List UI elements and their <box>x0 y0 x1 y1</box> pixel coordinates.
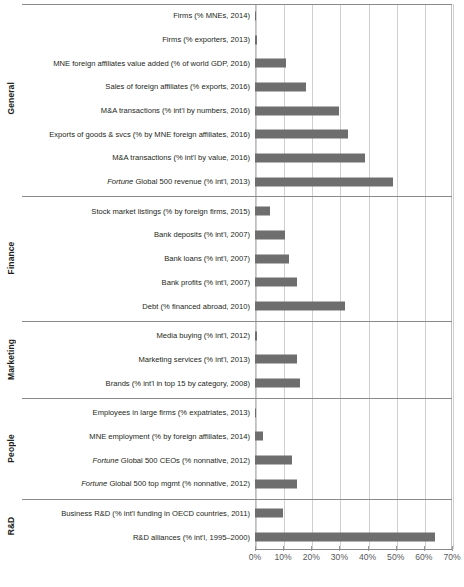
bar-track <box>255 271 464 295</box>
bar-track <box>255 247 464 271</box>
row-label: MNE foreign affiliates value added (% of… <box>22 59 255 68</box>
group-label-column: GeneralFinanceMarketingPeopleR&D <box>0 0 22 549</box>
chart-row: Stock market listings (% by foreign firm… <box>22 199 464 223</box>
bar-track <box>255 448 464 472</box>
bar <box>255 456 292 465</box>
bar <box>255 432 263 441</box>
chart-row: Bank deposits (% int'l, 2007) <box>22 223 464 247</box>
chart-row: Fortune Global 500 top mgmt (% nonnative… <box>22 472 464 496</box>
bar <box>255 130 348 139</box>
x-tick-label: 10% <box>275 552 292 562</box>
bar <box>255 153 365 162</box>
bar <box>255 278 297 287</box>
bar-track <box>255 99 464 123</box>
row-label: Fortune Global 500 revenue (% int'l, 201… <box>22 177 255 186</box>
row-label-italic-prefix: Fortune <box>107 177 133 186</box>
chart-rows: Firms (% MNEs, 2014)Firms (% exporters, … <box>22 0 464 549</box>
row-label: Employees in large firms (% expatriates,… <box>22 408 255 417</box>
bar-track <box>255 199 464 223</box>
row-label: Debt (% financed abroad, 2010) <box>22 302 255 311</box>
bar <box>255 177 393 186</box>
bar <box>255 533 435 542</box>
bar <box>255 82 306 91</box>
group-label-people: People <box>0 401 22 496</box>
bar <box>255 254 289 263</box>
x-axis: 0%10%20%30%40%50%60%70% <box>0 552 464 572</box>
chart-row: Firms (% MNEs, 2014) <box>22 4 464 28</box>
row-label: Marketing services (% int'l, 2013) <box>22 355 255 364</box>
x-tick-label: 20% <box>303 552 320 562</box>
row-label: Brands (% int'l in top 15 by category, 2… <box>22 379 255 388</box>
bar-track <box>255 348 464 372</box>
chart-top-rule <box>22 4 452 5</box>
bar <box>255 479 297 488</box>
row-label: Business R&D (% int'l funding in OECD co… <box>22 509 255 518</box>
bar <box>255 509 283 518</box>
row-label: Fortune Global 500 CEOs (% nonnative, 20… <box>22 456 255 465</box>
bar-track <box>255 401 464 425</box>
x-axis-line <box>255 549 452 550</box>
x-tick-label: 70% <box>443 552 460 562</box>
row-label: MNE employment (% by foreign affiliates,… <box>22 432 255 441</box>
chart-row: Bank profits (% int'l, 2007) <box>22 271 464 295</box>
chart-row: Employees in large firms (% expatriates,… <box>22 401 464 425</box>
group-separator <box>22 196 452 197</box>
bar-track <box>255 122 464 146</box>
chart-row: Marketing services (% int'l, 2013) <box>22 348 464 372</box>
chart-row: Fortune Global 500 revenue (% int'l, 201… <box>22 170 464 194</box>
row-label: Firms (% exporters, 2013) <box>22 35 255 44</box>
row-label: R&D alliances (% int'l, 1995–2000) <box>22 533 255 542</box>
x-tick-label: 0% <box>249 552 261 562</box>
bar-track <box>255 146 464 170</box>
row-label-italic-prefix: Fortune <box>81 479 107 488</box>
row-label: Bank loans (% int'l, 2007) <box>22 254 255 263</box>
bar <box>255 59 286 68</box>
chart-row: Fortune Global 500 CEOs (% nonnative, 20… <box>22 448 464 472</box>
chart-row: M&A transactions (% int'l by numbers, 20… <box>22 99 464 123</box>
bar-track <box>255 170 464 194</box>
bar-track <box>255 28 464 52</box>
bar <box>255 302 345 311</box>
chart-row: Brands (% int'l in top 15 by category, 2… <box>22 371 464 395</box>
row-label: M&A transactions (% int'l by value, 2016… <box>22 153 255 162</box>
x-tick-label: 60% <box>415 552 432 562</box>
chart-row: Sales of foreign affiliates (% exports, … <box>22 75 464 99</box>
group-label-r-d: R&D <box>0 502 22 549</box>
bar <box>255 35 257 44</box>
x-tick-label: 30% <box>331 552 348 562</box>
bar-track <box>255 371 464 395</box>
row-label: Exports of goods & svcs (% by MNE foreig… <box>22 130 255 139</box>
group-separator <box>22 499 452 500</box>
bar <box>255 106 339 115</box>
bar <box>255 355 297 364</box>
bar-track <box>255 472 464 496</box>
row-label: Firms (% MNEs, 2014) <box>22 11 255 20</box>
bar-track <box>255 525 464 549</box>
chart-row: Media buying (% int'l, 2012) <box>22 324 464 348</box>
group-separator <box>22 398 452 399</box>
row-label: Bank profits (% int'l, 2007) <box>22 278 255 287</box>
bar-track <box>255 223 464 247</box>
chart-row: Exports of goods & svcs (% by MNE foreig… <box>22 122 464 146</box>
chart-row: Firms (% exporters, 2013) <box>22 28 464 52</box>
group-label-marketing: Marketing <box>0 324 22 395</box>
row-label-italic-prefix: Fortune <box>93 456 119 465</box>
chart-row: Bank loans (% int'l, 2007) <box>22 247 464 271</box>
x-tick-mark <box>452 546 453 551</box>
bar-track <box>255 324 464 348</box>
bar-chart: GeneralFinanceMarketingPeopleR&D Firms (… <box>0 0 464 587</box>
group-separator <box>22 321 452 322</box>
group-label-general: General <box>0 4 22 193</box>
row-label: Bank deposits (% int'l, 2007) <box>22 230 255 239</box>
chart-row: Debt (% financed abroad, 2010) <box>22 294 464 318</box>
bar-track <box>255 4 464 28</box>
x-tick-label: 40% <box>359 552 376 562</box>
bar-track <box>255 75 464 99</box>
row-label: Media buying (% int'l, 2012) <box>22 331 255 340</box>
bar-track <box>255 294 464 318</box>
bar <box>255 207 270 216</box>
group-label-finance: Finance <box>0 199 22 317</box>
bar <box>255 11 256 20</box>
row-label: Stock market listings (% by foreign firm… <box>22 207 255 216</box>
bar-track <box>255 502 464 526</box>
